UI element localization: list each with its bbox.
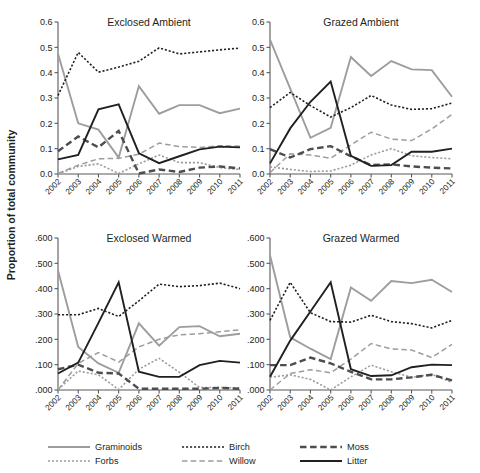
- panel-title: Exclosed Ambient: [107, 16, 191, 28]
- y-tick-label: 0.2: [40, 119, 53, 129]
- y-tick-label: 0.6: [40, 17, 53, 27]
- y-tick-label: 0.4: [40, 68, 53, 78]
- legend-label-willow: Willow: [229, 456, 256, 466]
- multi-panel-line-chart-figure: Proportion of total community Exclosed A…: [0, 0, 480, 473]
- y-tick-label: .200: [35, 335, 53, 345]
- y-tick-label: 0.0: [252, 169, 265, 179]
- y-tick-label: .300: [35, 309, 53, 319]
- y-tick-label: 0.5: [40, 43, 53, 53]
- y-axis-label: Proportion of total community: [5, 130, 17, 281]
- legend-label-moss: Moss: [347, 442, 369, 452]
- legend-label-graminoids: Graminoids: [95, 442, 142, 452]
- panel-title: Grazed Ambient: [323, 16, 398, 28]
- y-tick-label: .100: [35, 360, 53, 370]
- y-tick-label: 0.5: [252, 43, 265, 53]
- y-tick-label: .400: [247, 284, 265, 294]
- panel-title: Exclosed Warmed: [107, 232, 192, 244]
- y-tick-label: 0.3: [40, 93, 53, 103]
- y-tick-label: 0.3: [252, 93, 265, 103]
- y-tick-label: .100: [247, 360, 265, 370]
- y-tick-label: .300: [247, 309, 265, 319]
- y-tick-label: 0.0: [40, 169, 53, 179]
- y-tick-label: .400: [35, 284, 53, 294]
- y-tick-label: .200: [247, 335, 265, 345]
- y-tick-label: .500: [35, 259, 53, 269]
- y-tick-label: 0.6: [252, 17, 265, 27]
- y-tick-label: .600: [247, 233, 265, 243]
- y-tick-label: 0.2: [252, 119, 265, 129]
- y-axis-label-text: Proportion of total community: [5, 130, 17, 281]
- y-tick-label: .600: [35, 233, 53, 243]
- y-tick-label: 0.4: [252, 68, 265, 78]
- legend-label-birch: Birch: [229, 442, 250, 452]
- y-tick-label: .000: [247, 385, 265, 395]
- y-tick-label: 0.1: [252, 144, 265, 154]
- y-tick-label: .000: [35, 385, 53, 395]
- legend-label-litter: Litter: [347, 456, 367, 466]
- y-tick-label: 0.1: [40, 144, 53, 154]
- panel-title: Grazed Warmed: [323, 232, 400, 244]
- y-tick-label: .500: [247, 259, 265, 269]
- legend-label-forbs: Forbs: [95, 456, 119, 466]
